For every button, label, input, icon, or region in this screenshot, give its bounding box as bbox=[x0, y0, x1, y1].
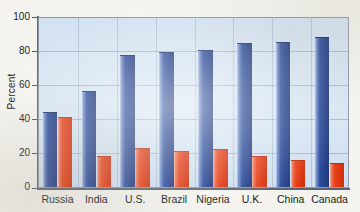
x-axis-label-canada: Canada bbox=[306, 192, 353, 206]
bar-blue-us bbox=[120, 55, 135, 187]
bar-red-russia bbox=[58, 117, 73, 187]
plot-area bbox=[38, 17, 349, 188]
bar-red-india bbox=[97, 156, 112, 187]
bar-red-brazil bbox=[174, 151, 189, 187]
x-axis-line bbox=[37, 188, 350, 190]
bar-red-china bbox=[291, 160, 306, 187]
gridline-80 bbox=[39, 51, 348, 52]
bar-blue-uk bbox=[237, 43, 252, 187]
gridline-60 bbox=[39, 85, 348, 86]
group-separator bbox=[156, 18, 157, 187]
bar-blue-canada bbox=[315, 37, 330, 188]
group-separator bbox=[233, 18, 234, 187]
group-separator bbox=[311, 18, 312, 187]
bar-blue-russia bbox=[43, 112, 58, 187]
y-tick-label-0: 0 bbox=[4, 182, 30, 192]
bar-red-canada bbox=[330, 163, 345, 187]
y-axis-title: Percent bbox=[6, 57, 17, 127]
bar-red-us bbox=[135, 148, 150, 187]
y-tick-label-80: 80 bbox=[4, 46, 30, 56]
bar-chart: 100 80 60 40 20 0 Percent RussiaIndiaU.S… bbox=[0, 0, 360, 212]
bar-blue-nigeria bbox=[198, 50, 213, 187]
y-tick-label-20: 20 bbox=[4, 148, 30, 158]
group-separator bbox=[117, 18, 118, 187]
group-separator bbox=[272, 18, 273, 187]
bar-blue-china bbox=[276, 42, 291, 187]
group-separator bbox=[195, 18, 196, 187]
bar-blue-india bbox=[82, 91, 97, 187]
group-separator bbox=[78, 18, 79, 187]
x-axis-labels: RussiaIndiaU.S.BrazilNigeriaU.K.ChinaCan… bbox=[38, 192, 349, 210]
y-tick-label-100: 100 bbox=[4, 12, 30, 22]
bar-blue-brazil bbox=[159, 52, 174, 187]
bar-red-nigeria bbox=[213, 149, 228, 187]
bar-red-uk bbox=[252, 156, 267, 187]
